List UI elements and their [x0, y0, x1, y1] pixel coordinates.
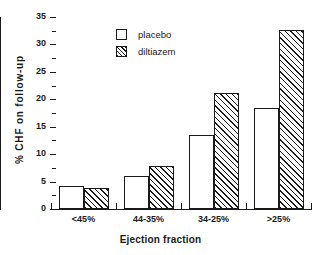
bar-placebo-<45% — [59, 186, 84, 209]
legend-item-diltiazem: diltiazem — [116, 43, 176, 60]
category-label-3: >25% — [239, 214, 319, 224]
bar-placebo-44-35% — [124, 176, 149, 209]
bar-placebo-34-25% — [189, 135, 214, 209]
bar-diltiazem-44-35% — [149, 166, 174, 209]
legend-item-placebo: placebo — [116, 26, 176, 43]
legend-label-placebo: placebo — [138, 29, 171, 40]
bar-chart: % CHF on follow-up 05101520253035 <45%44… — [0, 0, 321, 255]
bar-placebo->25% — [254, 108, 279, 209]
bar-diltiazem->25% — [279, 30, 304, 209]
legend: placebo diltiazem — [116, 26, 176, 60]
x-axis-title: Ejection fraction — [0, 234, 321, 245]
legend-label-diltiazem: diltiazem — [138, 46, 176, 57]
bar-diltiazem-34-25% — [214, 93, 239, 209]
legend-swatch-diltiazem-icon — [116, 46, 127, 57]
bar-diltiazem-<45% — [84, 188, 109, 209]
legend-swatch-placebo-icon — [116, 29, 127, 40]
